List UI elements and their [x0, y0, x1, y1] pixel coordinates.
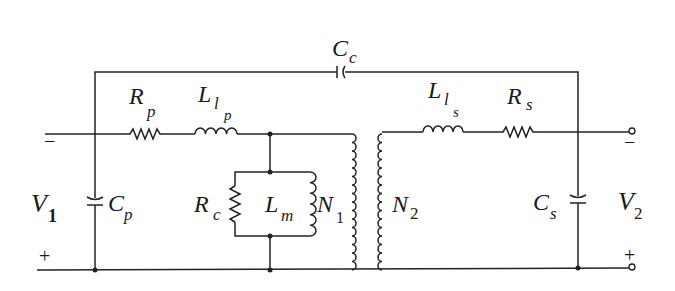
circuit-diagram: C c R p L l p L l s R s − + V 1 C p R c …	[0, 0, 675, 291]
label-rs-sub: s	[526, 95, 533, 114]
v2-plus-sign: +	[624, 244, 635, 266]
label-n1-sub: 1	[336, 209, 344, 226]
label-cs-sub: s	[550, 204, 557, 223]
inductor-lm	[310, 172, 316, 236]
label-cp: C	[108, 190, 125, 216]
winding-n1	[352, 134, 356, 270]
label-llp-sub: l	[214, 94, 219, 113]
box-bottom-wire	[235, 222, 310, 236]
bottom-wire	[37, 268, 629, 270]
resistor-rs	[500, 127, 537, 137]
label-lls: L	[427, 77, 441, 103]
label-cp-sub: p	[123, 205, 133, 224]
label-rs: R	[506, 83, 522, 109]
label-n1: N	[316, 191, 335, 217]
label-n2: N	[391, 191, 410, 217]
label-rp-sub: p	[146, 102, 156, 121]
label-cc-sub: c	[349, 48, 357, 67]
v1-minus-sign: −	[44, 130, 55, 152]
label-cc: C	[332, 35, 349, 61]
v2-minus-sign: −	[624, 131, 635, 153]
label-cs: C	[533, 189, 550, 215]
label-llp-subsub: p	[223, 107, 232, 123]
resistor-rp	[127, 129, 163, 139]
label-lm-sub: m	[281, 206, 293, 225]
label-lm: L	[264, 191, 278, 217]
label-v2-sub: 2	[634, 204, 643, 223]
label-n2-sub: 2	[410, 204, 419, 223]
capacitor-cp	[87, 197, 103, 205]
v1-plus-sign: +	[39, 245, 50, 267]
inductor-llp	[195, 128, 237, 134]
capacitor-cc	[337, 66, 345, 78]
winding-n2	[378, 134, 382, 270]
label-llp: L	[197, 81, 211, 107]
label-rp: R	[128, 83, 144, 109]
label-rc: R	[193, 191, 209, 217]
label-rc-sub: c	[213, 205, 221, 224]
resistor-rc	[230, 186, 240, 222]
label-v1-sub: 1	[48, 206, 57, 226]
label-lls-subsub: s	[453, 104, 459, 120]
capacitor-cs	[570, 195, 586, 203]
cc-wire-right	[345, 72, 578, 134]
box-top-wire	[235, 172, 310, 186]
label-lls-sub: l	[444, 90, 449, 109]
inductor-lls	[423, 126, 463, 132]
